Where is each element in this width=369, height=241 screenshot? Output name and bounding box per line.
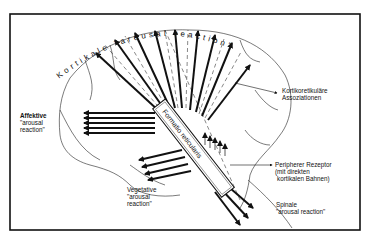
label-peripherer-rezeptor: Peripherer Rezeptor (mit direkten kortik… (275, 161, 332, 183)
figure-frame (10, 14, 360, 230)
vegetative-arrows (139, 150, 191, 180)
affective-arrows (84, 113, 155, 133)
receptor-arrows (205, 133, 225, 156)
label-spinale: Spinale "arousal reaction" (276, 201, 325, 215)
label-kortikoretikulaere: Kortikoretikuläre Assoziationen (282, 87, 328, 101)
formatio-label: Formatio reticularis (161, 108, 203, 160)
formatio-reticularis-box: Formatio reticularis (153, 99, 235, 197)
label-vegetative: Vegetative "arousal reaction" (127, 186, 156, 208)
pointer-lines (230, 83, 277, 165)
label-affektive: Affektive "arousal reaction" (20, 112, 47, 134)
